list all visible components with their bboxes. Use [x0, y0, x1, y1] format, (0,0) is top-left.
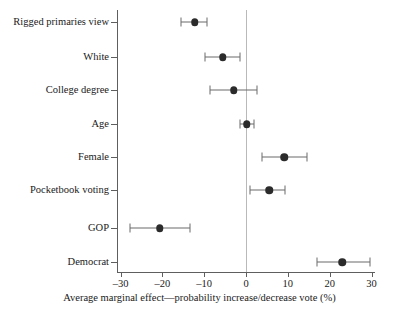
- confidence-interval-cap-white: [240, 53, 241, 62]
- x-axis-tick-label: 10: [268, 279, 308, 290]
- y-axis-label-female: Female: [78, 152, 109, 163]
- estimate-point-pocketbook-voting: [265, 186, 273, 194]
- x-axis-tick-label: 0: [226, 279, 266, 290]
- y-axis-tick: [111, 190, 117, 191]
- y-axis-tick: [111, 57, 117, 58]
- y-axis-tick: [111, 124, 117, 125]
- confidence-interval-cap-age: [240, 120, 241, 129]
- x-axis-tick-label: 20: [310, 279, 350, 290]
- estimate-point-white: [219, 53, 227, 61]
- confidence-interval-cap-gop: [189, 224, 190, 233]
- x-axis-tick-label: –20: [142, 279, 182, 290]
- y-axis-label-pocketbook-voting: Pocketbook voting: [30, 185, 109, 196]
- x-axis-title: Average marginal effect—probability incr…: [0, 293, 399, 304]
- y-axis-tick: [111, 90, 117, 91]
- confidence-interval-cap-democrat: [370, 258, 371, 267]
- estimate-point-rigged-primaries-view: [191, 18, 199, 26]
- x-axis-tick-label: –10: [184, 279, 224, 290]
- x-axis-tick: [288, 272, 289, 277]
- confidence-interval-cap-female: [307, 153, 308, 162]
- y-axis-label-age: Age: [92, 119, 110, 130]
- coefficient-plot-figure: Rigged primaries viewWhiteCollege degree…: [0, 0, 399, 315]
- y-axis-label-rigged-primaries-view: Rigged primaries view: [13, 17, 109, 28]
- confidence-interval-cap-pocketbook-voting: [250, 186, 251, 195]
- confidence-interval-cap-age: [253, 120, 254, 129]
- x-axis-tick: [330, 272, 331, 277]
- confidence-interval-cap-rigged-primaries-view: [181, 18, 182, 27]
- y-axis-tick: [111, 22, 117, 23]
- estimate-point-democrat: [338, 258, 346, 266]
- x-axis-tick: [121, 272, 122, 277]
- y-axis-label-democrat: Democrat: [68, 257, 109, 268]
- y-axis-label-white: White: [83, 52, 109, 63]
- confidence-interval-cap-college-degree: [256, 86, 257, 95]
- estimate-point-college-degree: [230, 86, 238, 94]
- y-axis-tick: [111, 262, 117, 263]
- confidence-interval-cap-female: [261, 153, 262, 162]
- confidence-interval-cap-gop: [129, 224, 130, 233]
- confidence-interval-cap-democrat: [317, 258, 318, 267]
- y-axis-tick: [111, 157, 117, 158]
- zero-reference-line: [246, 10, 247, 272]
- x-axis-tick: [246, 272, 247, 277]
- y-axis-tick: [111, 228, 117, 229]
- y-axis-label-college-degree: College degree: [46, 85, 109, 96]
- x-axis-tick: [204, 272, 205, 277]
- confidence-interval-cap-college-degree: [210, 86, 211, 95]
- confidence-interval-cap-rigged-primaries-view: [207, 18, 208, 27]
- estimate-point-age: [243, 120, 251, 128]
- x-axis-tick: [162, 272, 163, 277]
- estimate-point-female: [280, 153, 288, 161]
- estimate-point-gop: [156, 224, 164, 232]
- x-axis-tick-label: 30: [352, 279, 392, 290]
- x-axis-tick-label: –30: [101, 279, 141, 290]
- x-axis-tick: [372, 272, 373, 277]
- y-axis-line: [117, 10, 118, 272]
- y-axis-label-gop: GOP: [88, 223, 109, 234]
- confidence-interval-cap-white: [205, 53, 206, 62]
- confidence-interval-cap-pocketbook-voting: [285, 186, 286, 195]
